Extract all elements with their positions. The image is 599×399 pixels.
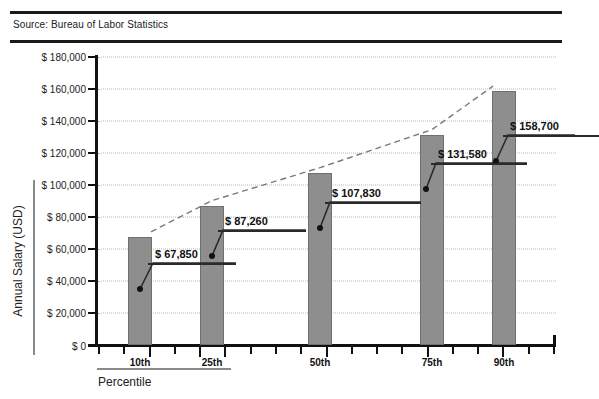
y-axis-tick-label: $ 80,000 <box>47 212 86 223</box>
y-axis-tick-label: $ 20,000 <box>47 308 86 319</box>
x-axis-tick <box>250 347 252 354</box>
x-axis-tick <box>123 347 125 354</box>
data-label-underline <box>503 135 599 137</box>
x-axis-tick <box>351 347 353 354</box>
x-axis-tick <box>376 347 378 354</box>
y-axis-tick-label: $ 180,000 <box>42 52 87 63</box>
y-axis-tick-label: $ 160,000 <box>42 84 87 95</box>
y-axis-title: Annual Salary (USD) <box>2 180 22 355</box>
x-axis-tick <box>502 347 504 357</box>
x-axis-tick <box>149 347 151 357</box>
gridline <box>98 57 556 58</box>
x-axis-tick <box>174 347 176 354</box>
x-axis-left-cap <box>88 344 96 347</box>
bar-75th <box>420 135 444 346</box>
data-label-10th: $ 67,850 <box>155 248 198 261</box>
bar-50th <box>308 173 332 346</box>
x-axis-tick <box>477 347 479 354</box>
y-axis-tick-label: $ 140,000 <box>42 116 87 127</box>
y-axis-tick-label: $ 60,000 <box>47 244 86 255</box>
data-label-75th: $ 131,580 <box>438 148 487 161</box>
y-axis-tick-label: $ 120,000 <box>42 148 87 159</box>
x-axis-title-text: Percentile <box>98 375 151 389</box>
y-axis-title-rule <box>33 180 35 355</box>
x-axis-tick <box>275 347 277 354</box>
x-axis-tick <box>427 347 429 357</box>
x-axis-tick <box>326 347 328 357</box>
bar-25th <box>200 206 224 346</box>
y-axis-tick-label: $ 40,000 <box>47 276 86 287</box>
x-axis-tick <box>553 347 555 354</box>
data-label-underline <box>148 263 236 265</box>
data-label-25th: $ 87,260 <box>225 215 268 228</box>
data-label-underline <box>325 202 421 204</box>
y-axis-title-text: Annual Salary (USD) <box>11 181 25 341</box>
data-label-underline <box>218 230 306 232</box>
x-axis-tick <box>224 347 226 357</box>
x-axis-title-rule <box>97 368 231 370</box>
x-axis-right-cap <box>553 335 556 346</box>
gridline <box>98 153 556 154</box>
bar-10th <box>128 237 152 346</box>
x-axis-tick <box>452 347 454 354</box>
x-axis-tick <box>199 347 201 357</box>
x-axis-tick <box>98 347 100 354</box>
y-axis-line <box>95 55 98 347</box>
data-label-50th: $ 107,830 <box>332 187 381 200</box>
data-label-underline <box>431 163 527 165</box>
x-axis-tick-label-25th: 25th <box>202 357 223 368</box>
x-axis-tick <box>528 347 530 354</box>
gridline <box>98 89 556 90</box>
y-axis-tick-label: $ 0 <box>72 340 86 351</box>
x-axis-tick-label-10th: 10th <box>130 357 151 368</box>
x-axis-tick-label-50th: 50th <box>310 357 331 368</box>
x-axis-tick-label-90th: 90th <box>494 357 515 368</box>
gridline <box>98 121 556 122</box>
x-axis-tick <box>300 347 302 354</box>
y-axis-tick-label: $ 100,000 <box>42 180 87 191</box>
x-axis-tick <box>401 347 403 354</box>
data-label-90th: $ 158,700 <box>510 120 559 133</box>
x-axis-tick-label-75th: 75th <box>422 357 443 368</box>
